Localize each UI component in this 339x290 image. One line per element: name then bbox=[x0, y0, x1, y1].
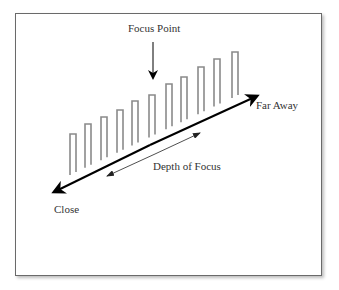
focus-bar bbox=[214, 59, 220, 107]
focus-bar bbox=[166, 84, 172, 129]
depth-of-focus-label: Depth of Focus bbox=[153, 160, 221, 172]
focus-bar bbox=[70, 134, 76, 175]
focus-bar bbox=[198, 67, 204, 114]
focus-bar bbox=[232, 52, 238, 98]
depth-arrow-back bbox=[107, 154, 155, 176]
focus-bar bbox=[149, 95, 155, 137]
focus-bar bbox=[181, 77, 187, 122]
close-label: Close bbox=[54, 203, 79, 215]
focus-bar bbox=[117, 110, 123, 153]
focus-bar bbox=[85, 124, 91, 168]
bars-group bbox=[70, 52, 238, 175]
focus-bar bbox=[132, 101, 138, 146]
focus-bar bbox=[101, 117, 107, 160]
focus-point-label: Focus Point bbox=[128, 22, 180, 34]
far-away-label: Far Away bbox=[256, 99, 298, 111]
main-distance-arrow-back bbox=[54, 145, 150, 192]
depth-of-focus-diagram bbox=[0, 0, 339, 290]
depth-arrow-forward bbox=[155, 133, 200, 154]
